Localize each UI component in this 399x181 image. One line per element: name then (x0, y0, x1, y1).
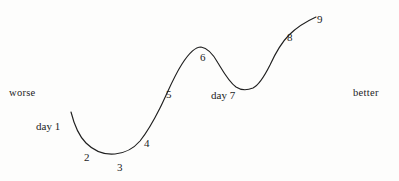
trajectory-curve (71, 17, 316, 154)
point-label-4: 4 (144, 137, 150, 149)
mood-trajectory-chart (0, 0, 399, 181)
axis-label-better: better (353, 87, 379, 98)
point-label-5: 5 (166, 88, 172, 100)
figure-container: worse better day 1 2 3 4 5 6 day 7 8 9 (0, 0, 399, 181)
axis-label-worse: worse (9, 87, 36, 98)
point-label-8: 8 (287, 31, 293, 43)
point-label-day-7: day 7 (211, 89, 235, 101)
point-label-9: 9 (317, 13, 323, 25)
point-label-6: 6 (200, 51, 206, 63)
point-label-3: 3 (117, 161, 123, 173)
point-label-day-1: day 1 (36, 120, 60, 132)
point-label-2: 2 (84, 151, 90, 163)
